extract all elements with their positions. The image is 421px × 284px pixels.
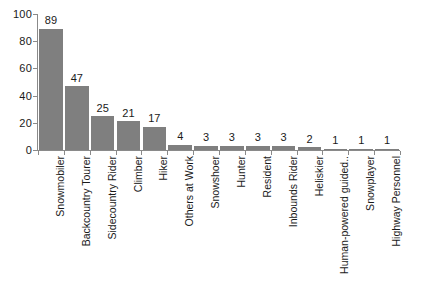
x-category-label: Heliskier	[314, 156, 325, 196]
plot-area: 8947252117433332111	[38, 14, 400, 150]
x-tick-mark	[348, 151, 349, 155]
x-tick-mark	[271, 151, 272, 155]
x-tick-mark	[297, 151, 298, 155]
bar	[324, 149, 348, 150]
x-category-label: Climber	[133, 156, 144, 192]
y-tick-mark	[33, 150, 37, 151]
bar-value-label: 1	[369, 135, 405, 146]
bar-value-label: 89	[33, 15, 69, 26]
bar	[117, 121, 141, 150]
y-tick-mark	[33, 96, 37, 97]
y-tick-label: 40	[19, 90, 32, 101]
x-category-label: Inbounds Rider	[288, 156, 299, 227]
x-category-label: Highway Personnel	[391, 156, 402, 246]
x-category-label: Snowplayer	[365, 156, 376, 211]
y-axis-label-group: 020406080100	[0, 14, 32, 150]
bar	[349, 149, 373, 150]
x-tick-mark	[245, 151, 246, 155]
x-tick-mark	[141, 151, 142, 155]
y-tick-mark	[33, 68, 37, 69]
x-tick-mark	[167, 151, 168, 155]
x-category-label: Resident	[262, 156, 273, 197]
bar	[298, 147, 322, 150]
y-tick-label: 60	[19, 63, 32, 74]
y-tick-mark	[33, 14, 37, 15]
x-tick-mark	[374, 151, 375, 155]
bar	[194, 146, 218, 150]
x-axis-label-group: SnowmobilerBackcountry TourerSidecountry…	[38, 156, 400, 284]
y-tick-mark	[33, 123, 37, 124]
x-category-label: Others at Work	[184, 156, 195, 226]
x-tick-mark	[64, 151, 65, 155]
y-tick-label: 100	[13, 9, 32, 20]
x-tick-mark	[322, 151, 323, 155]
x-category-label: Sidecountry Rider	[107, 156, 118, 239]
x-tick-mark	[90, 151, 91, 155]
x-tick-mark	[193, 151, 194, 155]
y-tick-label: 0	[26, 145, 32, 156]
bar	[39, 29, 63, 150]
x-category-label: Human-powered guided..	[339, 156, 350, 274]
bar	[272, 146, 296, 150]
bar	[65, 86, 89, 150]
bar	[375, 149, 399, 150]
y-tick-label: 80	[19, 36, 32, 47]
x-category-label: Snowmobiler	[55, 156, 66, 217]
bar	[220, 146, 244, 150]
x-tick-mark	[400, 151, 401, 155]
bar-chart: 020406080100 8947252117433332111 Snowmob…	[0, 0, 421, 284]
bar	[168, 145, 192, 150]
x-tick-mark	[116, 151, 117, 155]
bar	[91, 116, 115, 150]
y-tick-mark	[33, 41, 37, 42]
x-tick-mark	[38, 151, 39, 155]
x-category-label: Backcountry Tourer	[81, 156, 92, 246]
x-category-label: Snowshoer	[210, 156, 221, 209]
bar-value-label: 47	[59, 73, 95, 84]
y-tick-label: 20	[19, 117, 32, 128]
bar-value-label: 17	[137, 113, 173, 124]
x-category-label: Hunter	[236, 156, 247, 188]
bar	[246, 146, 270, 150]
x-category-label: Hiker	[158, 156, 169, 181]
x-tick-mark	[219, 151, 220, 155]
